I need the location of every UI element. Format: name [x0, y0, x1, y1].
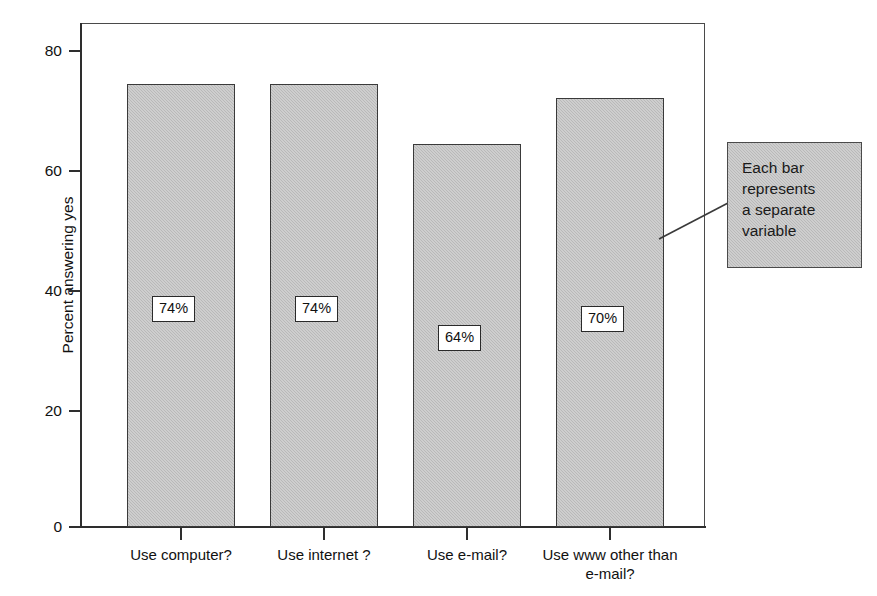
- x-tick-mark-use-computer: [180, 528, 182, 540]
- x-tick-label-line-1: Use www other than: [515, 546, 705, 565]
- y-tick-mark-20: [69, 410, 80, 412]
- bar-value-label-use-email: 64%: [438, 325, 481, 351]
- bar-chart: Percent answering yes 80 60 40 20 0 74% …: [0, 0, 877, 596]
- y-tick-mark-60: [69, 170, 80, 172]
- x-tick-label-line-2: e-mail?: [515, 565, 705, 584]
- x-tick-label-use-www-other-than-email: Use www other than e-mail?: [515, 546, 705, 584]
- y-tick-label-20: 20: [0, 403, 62, 419]
- y-tick-mark-80: [69, 50, 80, 52]
- bar-value-label-use-www-other-than-email: 70%: [581, 306, 624, 332]
- x-tick-mark-use-www-other-than-email: [609, 528, 611, 540]
- annotation-line-4: variable: [742, 220, 861, 241]
- x-tick-mark-use-email: [466, 528, 468, 540]
- bar-value-label-use-computer: 74%: [152, 296, 195, 322]
- y-tick-label-80: 80: [0, 43, 62, 59]
- y-axis-title: Percent answering yes: [59, 145, 77, 405]
- y-tick-label-40: 40: [0, 283, 62, 299]
- y-tick-mark-40: [69, 290, 80, 292]
- y-tick-mark-0: [69, 526, 80, 528]
- annotation-line-3: a separate: [742, 199, 861, 220]
- bar-value-label-use-internet: 74%: [295, 296, 338, 322]
- y-tick-label-0: 0: [0, 519, 62, 535]
- annotation-line-1: Each bar: [742, 157, 861, 178]
- annotation-line-2: represents: [742, 178, 861, 199]
- y-axis-line: [80, 23, 82, 528]
- x-tick-mark-use-internet: [323, 528, 325, 540]
- annotation-callout: Each bar represents a separate variable: [727, 142, 862, 268]
- y-tick-label-60: 60: [0, 163, 62, 179]
